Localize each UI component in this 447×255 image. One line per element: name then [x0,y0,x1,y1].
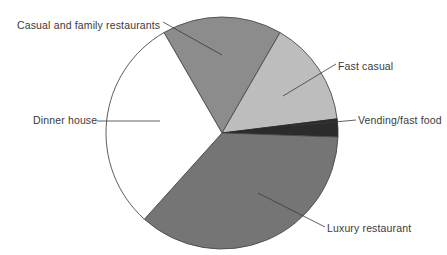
pie-chart-figure: Casual and family restaurants Fast casua… [0,0,447,255]
slice-label-dinner-house: Dinner house [33,114,97,126]
pie-slice-group [106,17,338,249]
slice-label-casual-and-family-restaurants: Casual and family restaurants [17,19,160,31]
pie-chart-svg [0,0,447,255]
slice-label-fast-casual: Fast casual [338,60,393,72]
slice-label-vending-fast-food: Vending/fast food [358,114,442,126]
slice-label-luxury-restaurant: Luxury restaurant [327,222,411,234]
